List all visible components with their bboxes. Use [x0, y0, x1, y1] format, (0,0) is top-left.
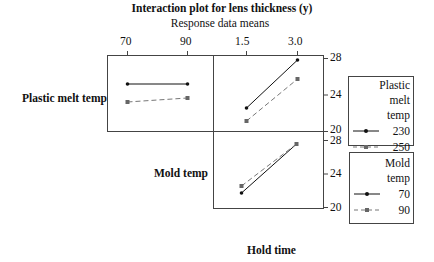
legend-title-line: Mold	[350, 156, 410, 171]
legend-plastic-melt-temp: Plastic melt temp 230 250	[348, 76, 414, 146]
legend-entry-70: 70	[350, 186, 413, 202]
legend-entry-90: 90	[350, 202, 413, 218]
legend-mold-temp: Mold temp 70 90	[349, 152, 414, 224]
legend-entry-230: 230	[349, 123, 413, 139]
solid-circle-marker-icon	[353, 123, 383, 139]
series-250-mold	[128, 98, 188, 102]
dashed-square-marker-icon	[354, 202, 384, 218]
legend-title-line: temp	[350, 171, 410, 186]
series-230-hold	[247, 60, 298, 108]
series-70-hold	[242, 144, 297, 193]
series-90-hold	[242, 144, 297, 186]
solid-circle-marker-icon	[354, 186, 384, 202]
legend-title-line: Plastic	[349, 78, 410, 93]
panel-melt-x-mold	[108, 56, 214, 132]
series-250-hold	[247, 79, 298, 121]
panel-melt-x-hold	[214, 56, 324, 132]
legend-title-line: temp	[349, 108, 410, 123]
legend-title-line: melt	[349, 93, 410, 108]
panel-mold-x-hold	[214, 132, 324, 209]
